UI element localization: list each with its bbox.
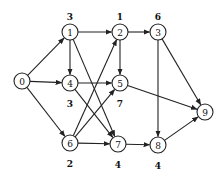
node-8: 84 [150, 137, 166, 171]
node-4: 43 [62, 75, 78, 109]
edge-3-to-9 [162, 39, 201, 105]
node-2: 21 [112, 12, 128, 40]
node-weight-label: 7 [117, 99, 123, 109]
edge-6-to-7 [78, 143, 110, 144]
node-label: 5 [117, 79, 123, 89]
node-weight-label: 6 [155, 12, 161, 22]
node-3: 36 [150, 12, 166, 40]
edge-7-to-8 [126, 144, 150, 145]
graph-svg: 013213643576274849 [0, 0, 224, 172]
edge-8-to-9 [165, 117, 198, 141]
node-weight-label: 2 [67, 159, 73, 169]
node-0: 0 [14, 73, 30, 89]
node-9: 9 [197, 104, 213, 120]
node-label: 2 [117, 28, 123, 38]
node-5: 57 [112, 75, 128, 109]
node-label: 1 [67, 28, 73, 38]
edge-5-to-9 [128, 86, 197, 110]
node-weight-label: 3 [67, 12, 73, 22]
node-label: 0 [19, 77, 25, 87]
node-1: 13 [62, 12, 78, 40]
edge-0-to-4 [30, 81, 62, 82]
node-weight-label: 1 [117, 12, 123, 22]
node-label: 9 [202, 108, 208, 118]
node-label: 3 [155, 28, 161, 38]
edge-0-to-1 [28, 38, 64, 75]
edge-0-to-6 [27, 87, 65, 136]
node-weight-label: 4 [155, 161, 161, 171]
node-weight-label: 4 [115, 160, 121, 170]
node-label: 7 [115, 140, 121, 150]
node-7: 74 [110, 136, 126, 170]
node-6: 62 [62, 135, 78, 169]
node-label: 4 [67, 79, 73, 89]
network-diagram: 013213643576274849 [0, 0, 224, 172]
node-label: 8 [155, 141, 161, 151]
node-label: 6 [67, 139, 73, 149]
node-weight-label: 3 [67, 99, 73, 109]
